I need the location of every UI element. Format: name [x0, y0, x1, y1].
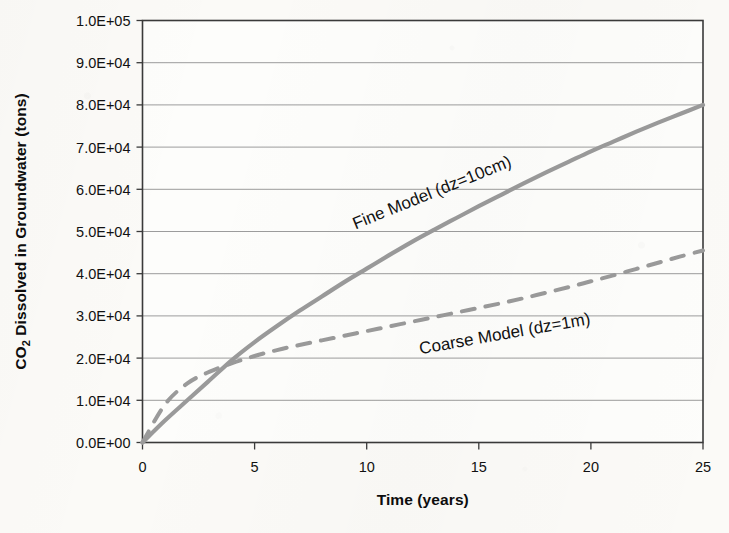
xtick-label-1: 5	[251, 459, 259, 475]
xtick-label-2: 10	[359, 459, 375, 475]
ytick-label-1: 1.0E+04	[76, 393, 130, 409]
xtick-label-4: 20	[583, 459, 599, 475]
chart-figure: 0.0E+001.0E+042.0E+043.0E+044.0E+045.0E+…	[0, 0, 729, 533]
ytick-label-10: 1.0E+05	[76, 13, 130, 29]
ytick-label-7: 7.0E+04	[76, 140, 130, 156]
ytick-label-6: 6.0E+04	[76, 182, 130, 198]
x-axis-title: Time (years)	[377, 491, 469, 508]
ytick-label-2: 2.0E+04	[76, 351, 130, 367]
xtick-label-3: 15	[471, 459, 487, 475]
ytick-label-8: 8.0E+04	[76, 97, 130, 113]
xtick-label-5: 25	[695, 459, 711, 475]
ytick-label-9: 9.0E+04	[76, 55, 130, 71]
chart-canvas: 0.0E+001.0E+042.0E+043.0E+044.0E+045.0E+…	[0, 0, 729, 533]
ytick-label-3: 3.0E+04	[76, 308, 130, 324]
y-axis-title: CO2 Dissolved in Groundwater (tons)	[12, 93, 32, 370]
ytick-label-0: 0.0E+00	[76, 435, 130, 451]
ytick-label-5: 5.0E+04	[76, 224, 130, 240]
xtick-label-0: 0	[138, 459, 146, 475]
ytick-label-4: 4.0E+04	[76, 266, 130, 282]
